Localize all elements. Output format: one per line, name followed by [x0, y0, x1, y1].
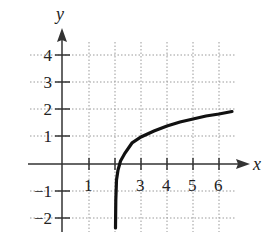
x-axis-label: x — [252, 154, 261, 174]
x-tick-label: 5 — [188, 176, 197, 195]
y-tick-label: −1 — [34, 182, 52, 201]
x-tick-label: 1 — [84, 176, 93, 195]
x-tick-label: 3 — [136, 176, 145, 195]
y-axis-label: y — [54, 4, 64, 24]
grid — [30, 42, 236, 232]
y-tick-label: −2 — [34, 209, 52, 228]
y-tick-label: 1 — [44, 127, 53, 146]
y-tick-label: 2 — [44, 100, 53, 119]
y-tick-label: 3 — [44, 73, 53, 92]
graph: y x 1 3 4 5 6 4 3 2 1 −1 −2 — [0, 0, 270, 245]
x-tick-label: 4 — [162, 176, 171, 195]
curve — [116, 112, 233, 229]
y-tick-label: 4 — [44, 46, 53, 65]
x-axis-arrow-icon — [236, 159, 250, 169]
x-tick-label: 6 — [214, 176, 223, 195]
y-axis-arrow-icon — [57, 28, 67, 42]
axes — [28, 38, 240, 232]
